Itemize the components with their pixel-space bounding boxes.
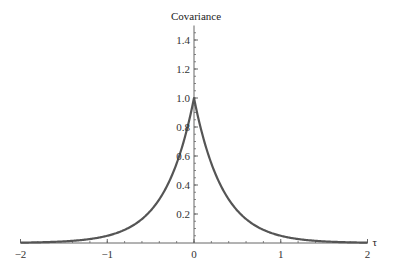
y-tick-label: 0.8 xyxy=(176,121,190,133)
x-axis-title: τ xyxy=(373,236,378,248)
y-tick-label: 0.4 xyxy=(176,179,190,191)
x-tick-label: −2 xyxy=(15,248,27,260)
y-tick-label: 0.2 xyxy=(176,208,190,220)
tick-labels: −2−10120.20.40.60.81.01.21.4Covarianceτ xyxy=(15,10,378,260)
x-tick-label: 1 xyxy=(278,248,284,260)
x-tick-label: 2 xyxy=(365,248,371,260)
y-tick-label: 1.2 xyxy=(176,63,190,75)
y-tick-label: 1.4 xyxy=(176,34,190,46)
covariance-chart: −2−10120.20.40.60.81.01.21.4Covarianceτ xyxy=(0,0,393,270)
x-tick-label: −1 xyxy=(101,248,113,260)
y-tick-label: 0.6 xyxy=(176,150,190,162)
y-tick-label: 1.0 xyxy=(176,92,190,104)
axes xyxy=(21,26,368,244)
x-tick-label: 0 xyxy=(191,248,197,260)
y-axis-title: Covariance xyxy=(171,10,221,22)
